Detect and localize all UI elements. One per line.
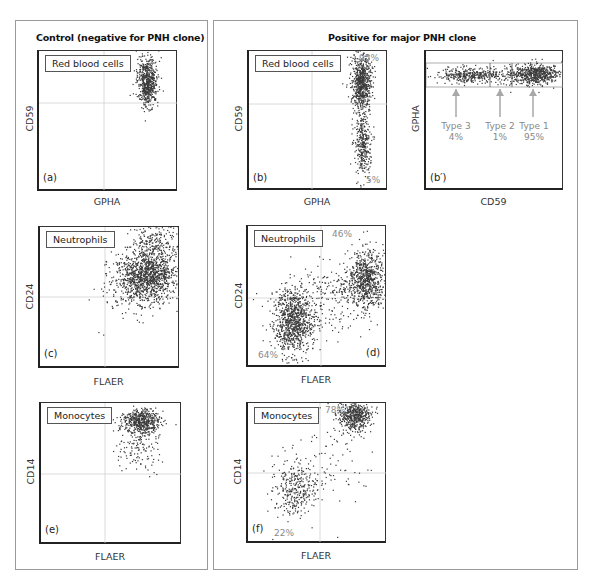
upper-percent: 78%	[325, 405, 345, 415]
y-axis-label: CD14	[25, 457, 36, 487]
type3-percent: 4%	[438, 132, 474, 143]
panel-tag: (e)	[45, 524, 59, 535]
type2-label: Type 2 1%	[482, 121, 518, 143]
type1-label: Type 1 95%	[516, 121, 552, 143]
plot-b-rbc-pnh: Red blood cells 95% 5% (b)	[247, 50, 387, 190]
x-axis-label: GPHA	[37, 196, 177, 207]
x-axis-label: FLAER	[38, 376, 179, 387]
scatter-dots	[499, 59, 563, 94]
type3-arrow-icon	[452, 89, 460, 117]
x-axis-label: FLAER	[246, 374, 386, 385]
y-axis-label: CD24	[233, 281, 244, 311]
panel-tag: (d)	[366, 347, 380, 358]
control-panel-title: Control (negative for PNH clone)	[36, 32, 204, 43]
plot-e-scatter	[41, 403, 181, 543]
type2-arrow-icon	[496, 89, 504, 117]
type1-percent: 95%	[516, 132, 552, 143]
y-axis-label: CD59	[24, 104, 35, 134]
pnh-panel-title: Positive for major PNH clone	[328, 32, 476, 43]
y-axis-label: CD59	[233, 104, 244, 134]
plot-c-neutrophils-control: Neutrophils (c)	[38, 226, 179, 368]
panel-tag: (b)	[253, 172, 267, 183]
y-axis-label: CD14	[232, 457, 243, 487]
scatter-dots	[426, 64, 512, 86]
plot-c-scatter	[40, 227, 179, 367]
type3-name: Type 3	[438, 121, 474, 132]
lower-percent: 5%	[366, 175, 380, 185]
plot-bprime-rbc-types: Type 3 4% Type 2 1% Type 1 95% (b′)	[424, 50, 563, 190]
cell-type-label: Red blood cells	[255, 55, 341, 72]
type2-percent: 1%	[482, 132, 518, 143]
upper-percent: 46%	[332, 229, 352, 239]
scatter-dots	[339, 231, 386, 326]
x-axis-label: FLAER	[39, 551, 181, 562]
panel-tag: (c)	[44, 348, 57, 359]
cell-type-label: Red blood cells	[45, 55, 131, 72]
cell-type-label: Neutrophils	[254, 230, 323, 247]
upper-percent: 95%	[359, 53, 379, 63]
y-axis-label: GPHA	[410, 104, 421, 134]
plot-d-neutrophils-pnh: Neutrophils 46% 64% (d)	[246, 225, 386, 367]
y-axis-label: CD24	[24, 282, 35, 312]
type1-arrow-icon	[529, 89, 537, 117]
scatter-dots	[115, 406, 167, 438]
panel-tag: (b′)	[430, 172, 446, 183]
type1-name: Type 1	[516, 121, 552, 132]
plot-d-scatter	[248, 226, 386, 366]
cell-type-label: Monocytes	[47, 407, 112, 424]
x-axis-label: FLAER	[246, 550, 386, 561]
lower-percent: 22%	[274, 528, 294, 538]
panel-tag: (f)	[252, 523, 263, 534]
x-axis-label: GPHA	[247, 196, 387, 207]
plot-a-rbc-control: Red blood cells (a)	[37, 50, 177, 191]
plot-f-monocytes-pnh: Monocytes 78% 22% (f)	[246, 402, 386, 543]
scatter-dots	[104, 238, 179, 316]
panel-tag: (a)	[43, 172, 57, 183]
plot-e-monocytes-control: Monocytes (e)	[39, 402, 181, 544]
lower-percent: 64%	[258, 350, 278, 360]
cell-type-label: Neutrophils	[46, 231, 115, 248]
x-axis-label: CD59	[424, 196, 563, 207]
cell-type-label: Monocytes	[254, 407, 319, 424]
type3-label: Type 3 4%	[438, 121, 474, 143]
type2-name: Type 2	[482, 121, 518, 132]
scatter-dots	[263, 447, 331, 540]
scatter-dots	[130, 51, 164, 122]
plot-bprime-scatter	[426, 51, 563, 189]
